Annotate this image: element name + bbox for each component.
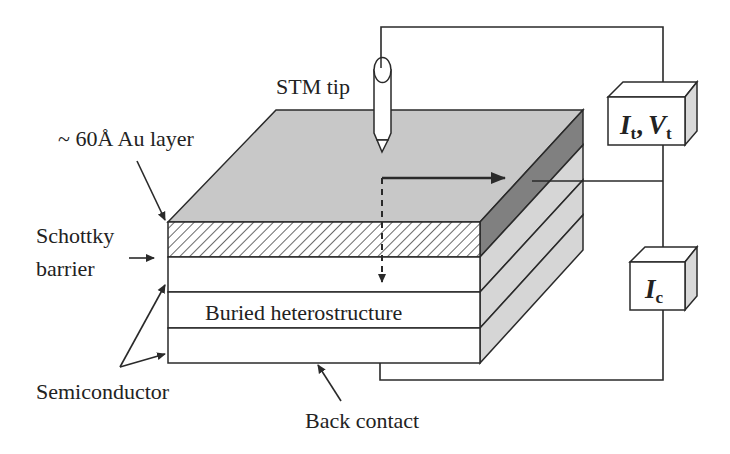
front-au-layer (168, 222, 480, 257)
arrow-au-layer (137, 161, 165, 220)
front-schottky-layer (168, 257, 480, 292)
label-semiconductor: Semiconductor (36, 379, 170, 404)
collector-current-meter (630, 247, 697, 310)
arrow-back-contact (318, 365, 341, 401)
label-au-layer: ~ 60Å Au layer (58, 126, 195, 151)
stm-diagram: It,Vt Ic STM tip ~ 60Å Au layer Schottky… (0, 0, 730, 454)
label-schottky-2: barrier (36, 256, 95, 281)
wire-tip-to-meter (381, 27, 663, 92)
label-schottky-1: Schottky (36, 223, 114, 248)
arrow-semiconductor-upper (120, 285, 165, 367)
label-stm-tip: STM tip (276, 74, 350, 99)
label-buried-heterostructure: Buried heterostructure (205, 300, 402, 325)
sample-block (168, 110, 583, 363)
label-back-contact: Back contact (305, 408, 419, 433)
front-bottom-layer (168, 328, 480, 363)
stm-tip-icon (374, 58, 391, 153)
